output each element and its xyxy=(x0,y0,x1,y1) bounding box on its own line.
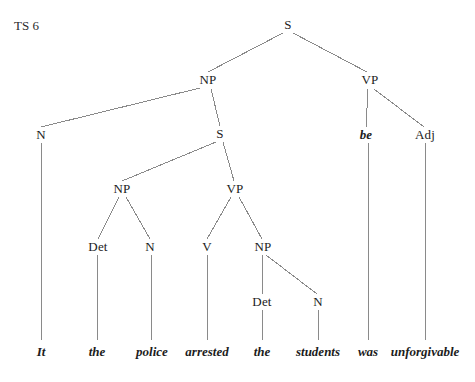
tree-terminal-t-it: It xyxy=(37,344,46,360)
tree-edge xyxy=(223,142,234,181)
tree-node-adj: Adj xyxy=(415,127,435,143)
tree-node-vp-outer: VP xyxy=(361,72,378,88)
tree-node-np-outer: NP xyxy=(199,72,216,88)
tree-edge xyxy=(41,88,200,127)
tree-terminal-t-unforgivable: unforgivable xyxy=(391,344,460,360)
tree-terminal-t-the1: the xyxy=(89,344,106,360)
tree-node-n-students: N xyxy=(313,294,323,310)
tree-node-np-inner: NP xyxy=(113,181,130,197)
tree-edge xyxy=(126,197,150,239)
tree-node-s-inner: S xyxy=(216,126,223,142)
tree-node-np-object: NP xyxy=(254,239,271,255)
tree-edge xyxy=(374,89,424,127)
tree-terminal-t-was: was xyxy=(358,344,378,360)
tree-node-v-arrested: V xyxy=(202,239,212,255)
tree-edge xyxy=(122,142,216,181)
tree-node-s-root: S xyxy=(284,17,291,33)
tree-node-vp-inner: VP xyxy=(226,181,243,197)
tree-node-n-it: N xyxy=(36,127,46,143)
tree-edge xyxy=(211,89,220,126)
tree-terminal-t-police: police xyxy=(136,344,168,360)
tree-edge xyxy=(239,197,262,239)
tree-node-be: be xyxy=(360,127,373,143)
tree-edge xyxy=(266,255,317,294)
tree-node-det-the1: Det xyxy=(88,239,107,255)
tree-node-n-police: N xyxy=(145,239,155,255)
tree-terminal-t-students: students xyxy=(296,344,340,360)
tree-terminal-t-the2: the xyxy=(254,344,271,360)
tree-edge xyxy=(293,33,367,72)
tree-node-det-the2: Det xyxy=(252,294,271,310)
tree-edge xyxy=(208,33,283,72)
tree-edge xyxy=(207,197,231,239)
tree-edge xyxy=(98,197,119,239)
tree-edge xyxy=(366,89,368,127)
syntax-tree-figure: TS 6 SNPVPNSbeAdjNPVPDetNVNPDetN Itthepo… xyxy=(0,0,475,382)
tree-terminal-t-arrested: arrested xyxy=(185,344,228,360)
